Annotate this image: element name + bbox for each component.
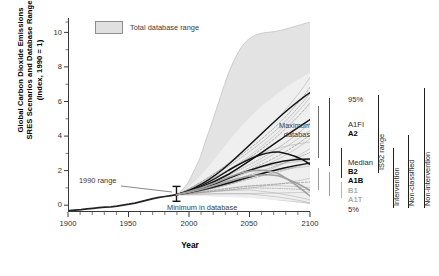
x-tick-label-2100: 2100	[293, 219, 327, 228]
y-axis-title-line-1: Global Carbon Dioxide Emissions	[16, 7, 25, 132]
bracket-label-intervention: Intervention	[392, 167, 401, 206]
y-tick-label-2: 2	[46, 166, 62, 175]
annotation-maximum-line-1: Maximum in	[269, 121, 310, 130]
historical-emissions-line	[69, 195, 177, 211]
bracket-label-non-classified: Non-classified	[407, 160, 416, 206]
y-axis-title: Global Carbon Dioxide Emissions SRES Sce…	[18, 0, 42, 170]
x-tick-label-2050: 2050	[232, 219, 266, 228]
y-axis-title-line-3: (Index, 1990 = 1)	[35, 40, 44, 101]
annotation-1990-range: 1990 range	[79, 176, 116, 185]
chart-figure: Global Carbon Dioxide Emissions SRES Sce…	[0, 0, 439, 276]
legend-label-total-database-range: Total database range	[130, 23, 199, 32]
range-1990-leader	[121, 186, 172, 192]
y-tick-label-6: 6	[46, 97, 62, 106]
right-label-5pct: 5%	[348, 206, 359, 215]
marker-bar-database-lower	[318, 168, 319, 190]
right-label-A1T: A1T	[348, 196, 362, 205]
x-tick-label-1950: 1950	[111, 219, 145, 228]
marker-bar-secondary-lower	[329, 172, 330, 196]
x-tick-label-1900: 1900	[51, 219, 85, 228]
y-tick-label-8: 8	[46, 62, 62, 71]
legend: Total database range	[95, 21, 199, 34]
marker-bar-database-upper	[318, 106, 319, 158]
annotation-maximum-line-2: database	[269, 130, 310, 139]
x-axis-title: Year	[150, 240, 230, 250]
y-tick-label-4: 4	[46, 131, 62, 140]
right-label-A2: A2	[348, 130, 358, 139]
legend-swatch-total-database-range	[95, 21, 123, 34]
y-tick-label-10: 10	[46, 28, 62, 37]
x-tick-label-2000: 2000	[172, 219, 206, 228]
marker-bar-sres-low	[341, 182, 342, 198]
y-tick-label-0: 0	[46, 200, 62, 209]
right-label-A1B: A1B	[348, 177, 363, 186]
marker-bar-sres-median	[341, 148, 342, 178]
bracket-label-is92-range: IS92 range	[377, 134, 386, 170]
bracket-label-non-intervention: Non-intervention	[423, 152, 432, 206]
y-axis-title-line-2: SRES Scenarios and Database Range	[25, 0, 34, 139]
marker-bar-secondary-upper	[329, 98, 330, 166]
right-label-95pct: 95%	[348, 96, 363, 105]
annotation-minimum-in-database: Minimum in database	[167, 203, 237, 212]
annotation-maximum-in-database: Maximum in database	[269, 121, 310, 139]
